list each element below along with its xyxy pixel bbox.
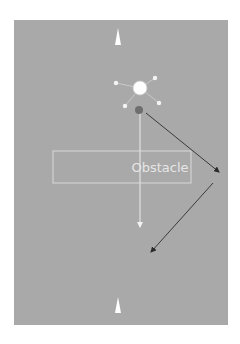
diagram-canvas: Obstacle [0, 0, 240, 344]
obstacle-label: Obstacle [131, 160, 188, 175]
bottom-marker-icon [115, 297, 121, 313]
sensor-hub [114, 76, 161, 108]
satellite-dot-icon [114, 81, 118, 85]
obstacle: Obstacle [53, 151, 191, 183]
hub-circle-icon [133, 81, 147, 95]
satellite-dot-icon [157, 101, 161, 105]
satellite-dot-icon [123, 104, 127, 108]
detour-arrow-segment-2 [151, 183, 213, 252]
agent-dot-icon [135, 106, 143, 114]
satellite-dot-icon [153, 76, 157, 80]
diagram-svg: Obstacle [0, 0, 240, 344]
top-marker-icon [115, 28, 121, 45]
